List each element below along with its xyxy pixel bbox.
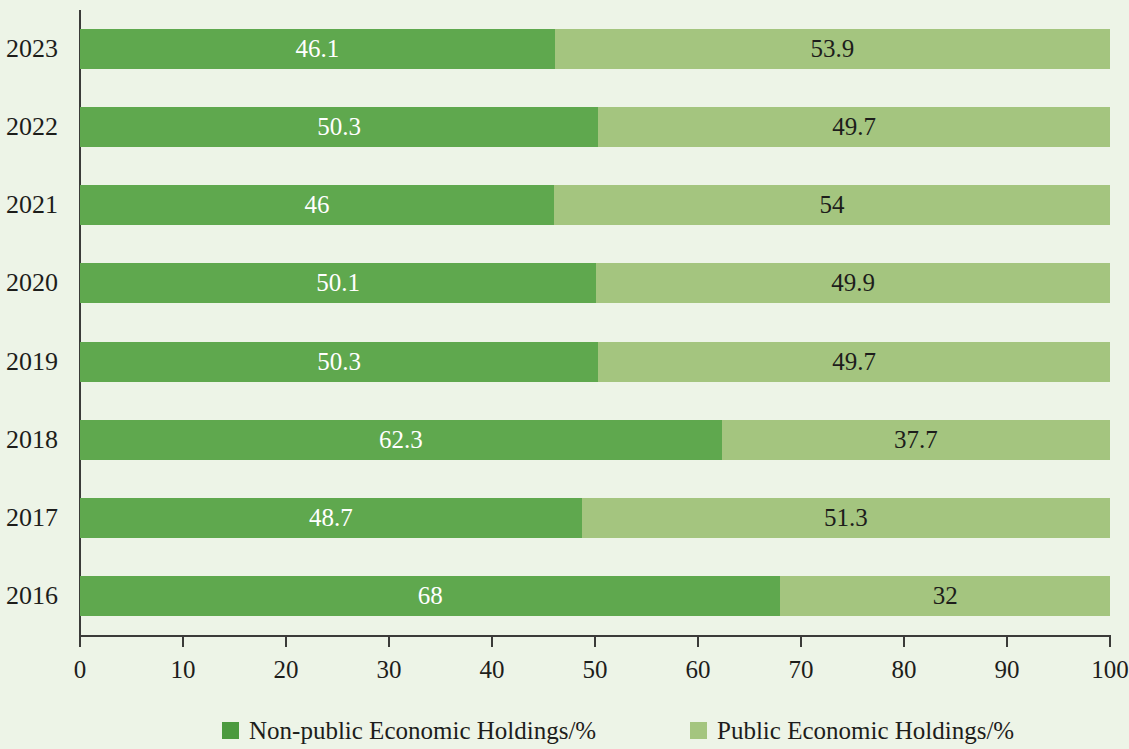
x-tick-label-100: 100 — [1091, 655, 1129, 685]
bar-segment-non-public[interactable]: 62.3 — [80, 420, 722, 460]
bar-value-public: 54 — [819, 191, 844, 219]
bar-segment-public[interactable]: 32 — [780, 576, 1110, 616]
x-tick-mark — [1109, 636, 1111, 647]
bar-value-public: 32 — [933, 582, 958, 610]
bar-row: 201862.337.7 — [80, 420, 1110, 460]
bar-segment-public[interactable]: 53.9 — [555, 29, 1110, 69]
x-tick-mark — [800, 636, 802, 647]
x-tick-label-80: 80 — [892, 655, 917, 685]
bar-segment-public[interactable]: 49.7 — [598, 107, 1110, 147]
bar-value-public: 49.7 — [832, 113, 876, 141]
bar-segment-non-public[interactable]: 46.1 — [80, 29, 555, 69]
x-tick-mark — [491, 636, 493, 647]
bar-segment-non-public[interactable]: 50.1 — [80, 263, 596, 303]
legend-item-non-public[interactable]: Non-public Economic Holdings/% — [222, 712, 596, 749]
bar-segment-non-public[interactable]: 50.3 — [80, 342, 598, 382]
x-tick-mark — [903, 636, 905, 647]
bar-value-public: 49.7 — [832, 348, 876, 376]
x-tick-mark — [182, 636, 184, 647]
y-axis-label-2021: 2021 — [0, 189, 78, 221]
x-tick-mark — [388, 636, 390, 647]
x-tick-label-70: 70 — [789, 655, 814, 685]
bar-value-public: 37.7 — [894, 426, 938, 454]
y-axis-label-2022: 2022 — [0, 111, 78, 143]
legend-swatch-public-icon — [690, 722, 707, 739]
bar-value-public: 51.3 — [824, 504, 868, 532]
x-tick-label-90: 90 — [995, 655, 1020, 685]
bar-segment-public[interactable]: 37.7 — [722, 420, 1110, 460]
chart-legend: Non-public Economic Holdings/% Public Ec… — [0, 712, 1124, 749]
x-tick-mark — [594, 636, 596, 647]
plot-area: 202346.153.9202250.349.720214654202050.1… — [80, 10, 1110, 635]
bar-row: 20166832 — [80, 576, 1110, 616]
legend-swatch-non-public-icon — [222, 722, 239, 739]
bar-row: 201748.751.3 — [80, 498, 1110, 538]
y-axis-label-2018: 2018 — [0, 424, 78, 456]
legend-label-non-public: Non-public Economic Holdings/% — [249, 716, 596, 746]
bar-segment-public[interactable]: 49.9 — [596, 263, 1110, 303]
y-axis-label-2020: 2020 — [0, 267, 78, 299]
x-tick-label-10: 10 — [171, 655, 196, 685]
y-axis-label-2017: 2017 — [0, 502, 78, 534]
bar-value-public: 49.9 — [831, 269, 875, 297]
bar-value-non-public: 46.1 — [296, 35, 340, 63]
x-tick-mark — [1006, 636, 1008, 647]
x-tick-label-50: 50 — [583, 655, 608, 685]
x-tick-mark — [79, 636, 81, 647]
legend-item-public[interactable]: Public Economic Holdings/% — [690, 712, 1014, 749]
y-axis-label-2023: 2023 — [0, 33, 78, 65]
x-tick-label-0: 0 — [74, 655, 87, 685]
bar-segment-non-public[interactable]: 48.7 — [80, 498, 582, 538]
legend-label-public: Public Economic Holdings/% — [717, 716, 1014, 746]
bar-row: 202050.149.9 — [80, 263, 1110, 303]
bar-segment-public[interactable]: 49.7 — [598, 342, 1110, 382]
bar-value-non-public: 50.1 — [316, 269, 360, 297]
bar-row: 20214654 — [80, 185, 1110, 225]
bar-segment-non-public[interactable]: 46 — [80, 185, 554, 225]
x-tick-label-20: 20 — [274, 655, 299, 685]
bar-value-non-public: 50.3 — [317, 113, 361, 141]
bar-segment-public[interactable]: 51.3 — [582, 498, 1110, 538]
bar-segment-non-public[interactable]: 68 — [80, 576, 780, 616]
x-tick-mark — [697, 636, 699, 647]
y-axis-label-2019: 2019 — [0, 346, 78, 378]
bar-segment-non-public[interactable]: 50.3 — [80, 107, 598, 147]
x-tick-mark — [285, 636, 287, 647]
bar-segment-public[interactable]: 54 — [554, 185, 1110, 225]
bar-value-public: 53.9 — [811, 35, 855, 63]
y-axis-line — [79, 10, 81, 635]
bar-value-non-public: 46 — [304, 191, 329, 219]
x-tick-label-40: 40 — [480, 655, 505, 685]
bar-value-non-public: 68 — [418, 582, 443, 610]
bar-row: 202250.349.7 — [80, 107, 1110, 147]
bar-value-non-public: 48.7 — [309, 504, 353, 532]
bar-value-non-public: 50.3 — [317, 348, 361, 376]
x-tick-label-30: 30 — [377, 655, 402, 685]
bar-row: 201950.349.7 — [80, 342, 1110, 382]
y-axis-label-2016: 2016 — [0, 580, 78, 612]
bar-row: 202346.153.9 — [80, 29, 1110, 69]
x-tick-label-60: 60 — [686, 655, 711, 685]
bar-value-non-public: 62.3 — [379, 426, 423, 454]
